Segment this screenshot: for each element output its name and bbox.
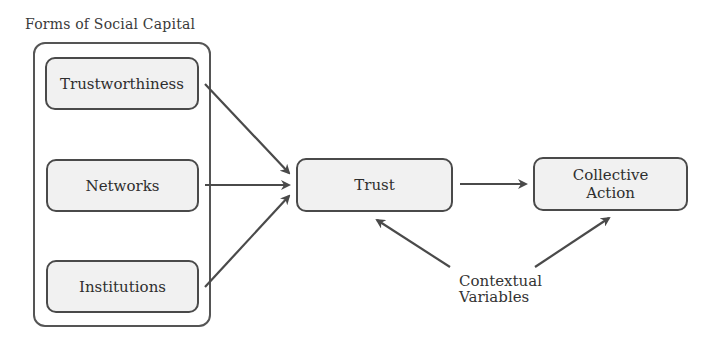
arrow-contextual-to-collective-action	[535, 218, 609, 267]
arrow-institutions-to-trust	[205, 196, 289, 287]
arrow-contextual-to-trust	[377, 220, 450, 267]
arrow-trustworthiness-to-trust	[205, 84, 289, 173]
edges-layer	[0, 0, 718, 345]
